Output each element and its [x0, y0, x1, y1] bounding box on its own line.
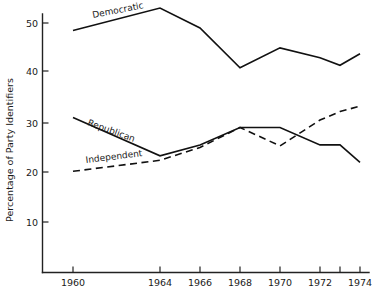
x-tick-label-1972: 1972 — [308, 277, 332, 288]
series-line-independent — [73, 106, 360, 171]
series-label-republican: Republican — [86, 117, 136, 143]
y-tick-label-50: 50 — [26, 18, 38, 29]
y-tick-label-40: 40 — [26, 66, 38, 77]
x-tick-label-1966: 1966 — [188, 277, 212, 288]
y-tick-label-20: 20 — [26, 167, 38, 178]
y-tick-label-10: 10 — [26, 217, 38, 228]
x-tick-label-1970: 1970 — [268, 277, 292, 288]
y-axis-title: Percentage of Party Identifiers — [4, 78, 15, 222]
series-label-democratic: Democratic — [91, 0, 144, 20]
x-tick-label-1964: 1964 — [148, 277, 172, 288]
party-identification-line-chart: 50 40 30 20 10 1960 1964 1966 1968 1970 … — [0, 0, 377, 292]
series-label-independent: Independent — [85, 148, 143, 165]
x-tick-label-1974: 1974 — [348, 277, 372, 288]
x-tick-label-1968: 1968 — [228, 277, 252, 288]
chart-plot-area: 50 40 30 20 10 1960 1964 1966 1968 1970 … — [0, 0, 377, 292]
series-line-democratic — [73, 8, 360, 68]
y-tick-label-30: 30 — [26, 118, 38, 129]
x-tick-label-1960: 1960 — [61, 277, 85, 288]
